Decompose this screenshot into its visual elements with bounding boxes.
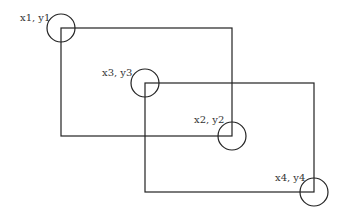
point-label: x2, y2 [194, 114, 224, 125]
point-label: x1, y1 [20, 12, 50, 23]
point-label: x3, y3 [102, 67, 132, 78]
diagram-canvas: x1, y1x3, y3x2, y2x4, y4 [0, 0, 345, 216]
diagram-svg: x1, y1x3, y3x2, y2x4, y4 [0, 0, 345, 216]
point-label: x4, y4 [275, 172, 305, 183]
